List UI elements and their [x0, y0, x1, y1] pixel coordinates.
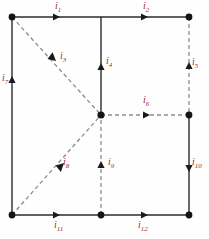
circuit-diagram: i1 i2 i3 i4 i5 i6 i7 i8 i9 i10 i11 i12: [0, 0, 209, 239]
label-i9: i9: [108, 157, 114, 171]
label-i2: i2: [143, 1, 149, 15]
node-bottom-left-dot: [9, 212, 16, 219]
node-top-left-dot: [9, 14, 16, 21]
arrow-i6-icon: [143, 111, 150, 118]
label-i11: i11: [54, 220, 63, 234]
circuit-graph-canvas: [0, 0, 209, 239]
arrow-i7-icon: [8, 76, 15, 83]
edge-i8-line: [12, 115, 101, 215]
label-i7: i7: [2, 73, 8, 87]
arrow-i4-icon: [97, 63, 104, 70]
node-bottom-right-dot: [186, 212, 193, 219]
label-i10: i10: [192, 157, 202, 171]
node-right-middle-dot: [186, 112, 193, 119]
arrow-i9-icon: [97, 161, 104, 168]
label-i12: i12: [138, 220, 148, 234]
arrow-i3-icon: [48, 52, 57, 61]
label-i5: i5: [192, 57, 198, 71]
label-i4: i4: [106, 56, 112, 70]
node-top-right-dot: [186, 14, 193, 21]
node-center-dot: [97, 111, 104, 118]
edge-i3-line: [12, 17, 101, 115]
label-i3: i3: [60, 51, 66, 65]
label-i8: i8: [63, 157, 69, 171]
arrow-i11-icon: [53, 211, 60, 218]
label-i1: i1: [55, 1, 61, 15]
node-bottom-middle-dot: [98, 212, 105, 219]
arrow-i12-icon: [141, 211, 148, 218]
label-i6: i6: [143, 95, 149, 109]
